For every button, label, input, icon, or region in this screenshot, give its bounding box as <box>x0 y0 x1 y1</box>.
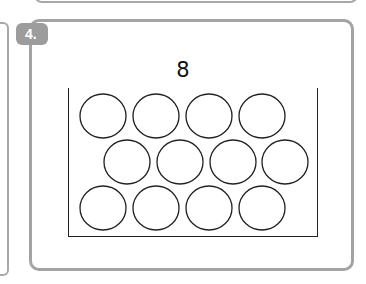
counter-circle[interactable] <box>210 140 256 184</box>
counter-circle[interactable] <box>262 140 308 184</box>
counter-circle[interactable] <box>104 140 150 184</box>
counter-circle[interactable] <box>133 186 179 230</box>
counter-circle[interactable] <box>186 94 232 138</box>
counter-circle[interactable] <box>239 186 285 230</box>
counter-circle[interactable] <box>80 186 126 230</box>
counter-circle[interactable] <box>186 186 232 230</box>
counting-circles <box>0 0 366 284</box>
counter-circle[interactable] <box>80 94 126 138</box>
counter-circle[interactable] <box>133 94 179 138</box>
counter-circle[interactable] <box>157 140 203 184</box>
counter-circle[interactable] <box>239 94 285 138</box>
